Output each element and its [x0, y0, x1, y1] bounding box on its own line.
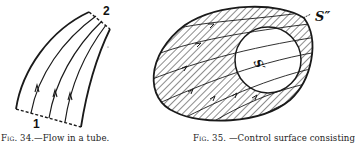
figure-number: Fig. 35.: [193, 133, 226, 143]
figure-34-caption: Fig. 34.—Flow in a tube.: [1, 133, 109, 143]
figure-34-flow-in-tube: Fig. 34.—Flow in a tube.: [0, 0, 130, 149]
tube-diagram: [0, 0, 130, 149]
caption-text: —Flow in a tube.: [34, 133, 109, 143]
tube-right-wall: [81, 29, 110, 127]
figure-number: Fig. 34.: [1, 133, 34, 143]
section-label-1: 1: [33, 117, 40, 131]
outer-surface-label: S″: [315, 9, 330, 24]
inner-surface-S1: [235, 27, 301, 93]
section-1-dashed: [16, 109, 81, 127]
section-label-2: 2: [103, 4, 110, 18]
caption-text: —Control surface consisting: [229, 133, 355, 143]
figure-35-caption: Fig. 35. —Control surface consisting: [193, 133, 355, 143]
